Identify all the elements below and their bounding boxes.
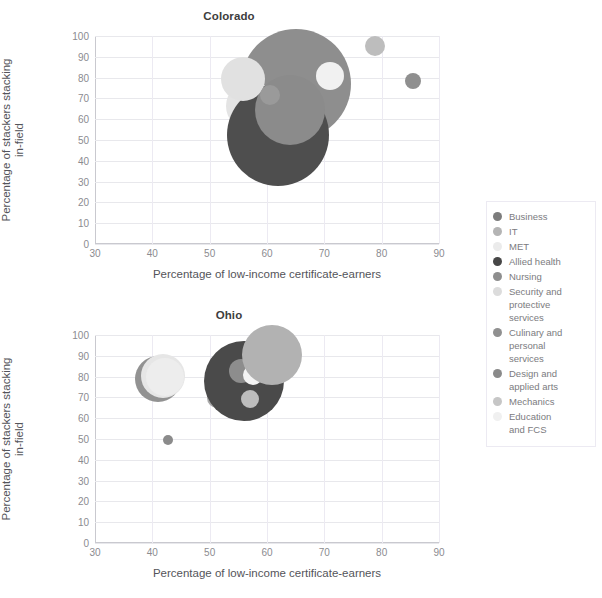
y-axis-tick-label: 80	[78, 72, 89, 83]
y-axis-tick-label: 60	[78, 413, 89, 424]
chart-legend: BusinessITMETAllied healthNursingSecurit…	[486, 201, 596, 447]
legend-item[interactable]: Design and applied arts	[493, 367, 591, 393]
y-axis-tick-label: 100	[72, 31, 89, 42]
legend-swatch-icon	[493, 412, 502, 421]
bubble-mechanics	[365, 36, 385, 56]
y-axis-tick-label: 0	[83, 538, 89, 549]
legend-item-label: Business	[509, 210, 548, 223]
y-axis-label-line2: in-field	[13, 36, 26, 244]
legend-item[interactable]: Business	[493, 210, 591, 223]
x-axis-label-ohio: Percentage of low-income certificate-ear…	[95, 567, 439, 579]
y-axis-tick-label: 20	[78, 197, 89, 208]
y-axis-tick-label: 70	[78, 392, 89, 403]
legend-item-label: Nursing	[509, 270, 542, 283]
bubble-culinary-and-personal-services	[405, 73, 421, 89]
plot-area-ohio: 010203040506070809010030405060708090	[95, 335, 439, 543]
legend-item[interactable]: Nursing	[493, 270, 591, 283]
figure-root: Colorado Percentage of stackers stacking…	[0, 0, 602, 598]
x-axis-tick-label: 50	[204, 547, 215, 558]
y-axis-tick-label: 50	[78, 135, 89, 146]
y-axis-tick-label: 80	[78, 371, 89, 382]
y-axis-tick-label: 10	[78, 218, 89, 229]
gridline-vertical	[439, 335, 440, 543]
legend-item-label: Mechanics	[509, 395, 554, 408]
legend-item[interactable]: IT	[493, 225, 591, 238]
x-axis-tick-label: 40	[147, 547, 158, 558]
gridline-vertical	[382, 335, 383, 543]
legend-swatch-icon	[493, 212, 502, 221]
bubble-mechanics	[242, 325, 302, 385]
x-axis-tick-label: 90	[433, 547, 444, 558]
legend-swatch-icon	[493, 328, 502, 337]
legend-swatch-icon	[493, 369, 502, 378]
y-axis-label-line1: Percentage of stackers stacking	[0, 36, 13, 244]
bubble-education-and-fcs	[146, 358, 184, 396]
x-axis-tick-label: 80	[376, 547, 387, 558]
legend-item-label: Allied health	[509, 255, 561, 268]
bubble-culinary-and-personal-services	[163, 435, 173, 445]
y-axis-tick-label: 70	[78, 93, 89, 104]
x-axis-tick-label: 40	[147, 248, 158, 259]
x-axis-label-colorado: Percentage of low-income certificate-ear…	[95, 268, 439, 280]
x-axis-tick-label: 70	[319, 547, 330, 558]
chart-panel-colorado: Colorado Percentage of stackers stacking…	[0, 0, 480, 299]
y-axis-tick-label: 40	[78, 454, 89, 465]
legend-swatch-icon	[493, 397, 502, 406]
legend-swatch-icon	[493, 242, 502, 251]
y-axis-tick-label: 90	[78, 51, 89, 62]
gridline-horizontal	[95, 244, 439, 245]
x-axis-tick-label: 30	[89, 248, 100, 259]
y-axis-label-colorado: Percentage of stackers stacking in-field	[0, 36, 14, 244]
legend-item-label: IT	[509, 225, 517, 238]
y-axis-tick-label: 30	[78, 176, 89, 187]
bubble-security-and-protective-services	[221, 57, 265, 101]
x-axis-tick-label: 60	[261, 248, 272, 259]
legend-item[interactable]: Allied health	[493, 255, 591, 268]
legend-swatch-icon	[493, 287, 502, 296]
y-axis-label-line1: Percentage of stackers stacking	[0, 335, 13, 543]
y-axis-tick-label: 30	[78, 475, 89, 486]
legend-item[interactable]: Culinary and personal services	[493, 326, 591, 365]
legend-item-label: MET	[509, 240, 529, 253]
gridline-vertical	[382, 36, 383, 244]
y-axis-tick-label: 90	[78, 350, 89, 361]
legend-item-label: Education and FCS	[509, 410, 551, 436]
legend-item-label: Culinary and personal services	[509, 326, 562, 365]
bubble-design-and-applied-arts	[260, 85, 280, 105]
x-axis-tick-label: 70	[319, 248, 330, 259]
x-axis-tick-label: 90	[433, 248, 444, 259]
gridline-horizontal	[95, 543, 439, 544]
chart-panel-ohio: Ohio Percentage of stackers stacking in-…	[0, 299, 480, 598]
bubble-design-and-applied-arts	[241, 390, 259, 408]
gridline-vertical	[324, 335, 325, 543]
gridline-vertical	[439, 36, 440, 244]
legend-item-label: Design and applied arts	[509, 367, 558, 393]
legend-item[interactable]: Mechanics	[493, 395, 591, 408]
chart-title-ohio: Ohio	[0, 309, 480, 321]
chart-title-colorado: Colorado	[0, 10, 480, 22]
legend-item-label: Security and protective services	[509, 285, 562, 324]
y-axis-tick-label: 0	[83, 239, 89, 250]
y-axis-tick-label: 10	[78, 517, 89, 528]
legend-item[interactable]: Education and FCS	[493, 410, 591, 436]
x-axis-tick-label: 30	[89, 547, 100, 558]
y-axis-tick-label: 100	[72, 330, 89, 341]
legend-swatch-icon	[493, 272, 502, 281]
legend-item[interactable]: Security and protective services	[493, 285, 591, 324]
y-axis-tick-label: 40	[78, 155, 89, 166]
legend-swatch-icon	[493, 257, 502, 266]
y-axis-label-ohio: Percentage of stackers stacking in-field	[0, 335, 14, 543]
legend-swatch-icon	[493, 227, 502, 236]
x-axis-tick-label: 60	[261, 547, 272, 558]
y-axis-tick-label: 20	[78, 496, 89, 507]
x-axis-tick-label: 80	[376, 248, 387, 259]
gridline-vertical	[210, 36, 211, 244]
x-axis-tick-label: 50	[204, 248, 215, 259]
legend-item[interactable]: MET	[493, 240, 591, 253]
bubble-education-and-fcs	[316, 62, 344, 90]
y-axis-tick-label: 60	[78, 114, 89, 125]
gridline-vertical	[152, 36, 153, 244]
plot-area-colorado: 010203040506070809010030405060708090	[95, 36, 439, 244]
y-axis-label-line2: in-field	[13, 335, 26, 543]
y-axis-tick-label: 50	[78, 434, 89, 445]
